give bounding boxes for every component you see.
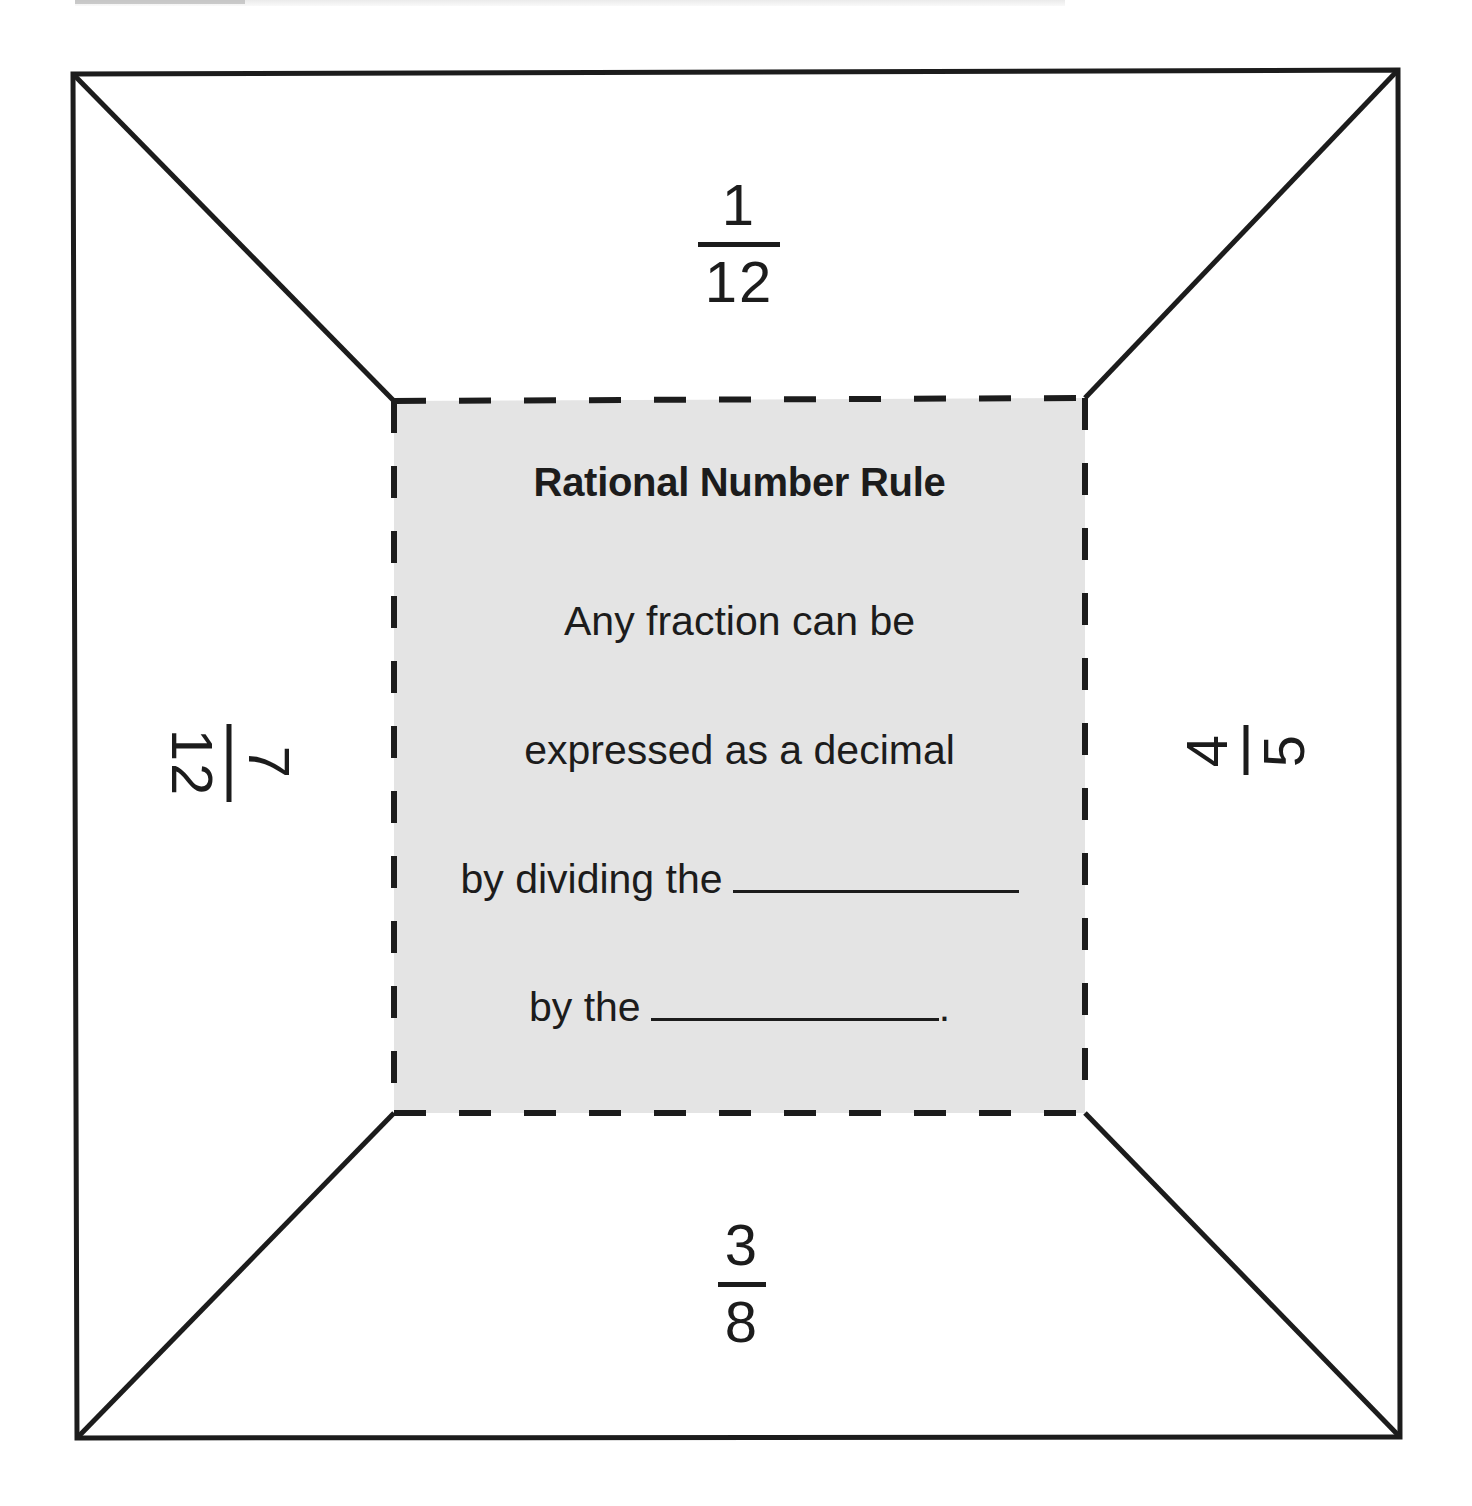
rule-line-4-period: . <box>939 984 950 1030</box>
fraction-right-rotated: 4 5 <box>1178 725 1313 775</box>
fraction-left-rotated: 7 12 <box>163 724 298 802</box>
diagonal-top-left <box>73 74 394 401</box>
diagonal-top-right <box>1085 70 1398 398</box>
rule-line-2-text: expressed as a decimal <box>524 727 955 773</box>
rule-line-3-text: by dividing the <box>460 856 722 902</box>
rule-line-2: expressed as a decimal <box>396 727 1083 774</box>
fraction-right-numerator: 4 <box>1178 733 1236 767</box>
rule-line-1: Any fraction can be <box>396 598 1083 645</box>
fill-in-blank-2[interactable] <box>651 1017 939 1021</box>
worksheet-page: Rational Number Rule Any fraction can be… <box>0 0 1472 1506</box>
fraction-bottom-flap: 3 8 <box>712 1216 772 1351</box>
fraction-top-denominator: 12 <box>705 253 774 311</box>
fraction-bottom-bar <box>718 1282 766 1287</box>
fraction-top-numerator: 1 <box>722 176 756 234</box>
fraction-right-denominator: 5 <box>1255 733 1313 767</box>
rule-line-1-text: Any fraction can be <box>564 598 915 644</box>
fraction-bottom-numerator: 3 <box>725 1216 759 1274</box>
fraction-top-bar <box>698 242 780 247</box>
fraction-top-flap: 1 12 <box>693 176 785 311</box>
dashed-cut-top <box>394 398 1085 401</box>
fraction-left-bar <box>227 724 232 802</box>
rule-line-4: by the. <box>396 984 1083 1031</box>
rule-title: Rational Number Rule <box>396 460 1083 505</box>
fraction-bottom-denominator: 8 <box>725 1293 759 1351</box>
fraction-right-flap: 4 5 <box>1190 700 1300 800</box>
rule-line-4-text: by the <box>529 984 641 1030</box>
fraction-right-bar <box>1244 725 1249 775</box>
fraction-left-denominator: 12 <box>163 729 221 798</box>
rule-line-3: by dividing the <box>396 856 1083 903</box>
diagonal-bottom-left <box>77 1113 394 1438</box>
diagonal-bottom-right <box>1085 1113 1400 1437</box>
fill-in-blank-1[interactable] <box>733 889 1019 893</box>
rule-panel: Rational Number Rule Any fraction can be… <box>396 402 1083 1111</box>
fraction-left-flap: 7 12 <box>184 708 276 818</box>
fraction-left-numerator: 7 <box>240 746 298 780</box>
